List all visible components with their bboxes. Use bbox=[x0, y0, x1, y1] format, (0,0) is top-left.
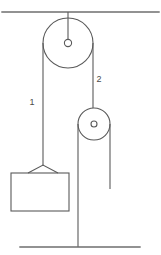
rope-1-label: 1 bbox=[29, 97, 34, 107]
movable-pulley-lower-hub bbox=[91, 121, 97, 127]
pulley-diagram-canvas: 1 2 bbox=[0, 0, 161, 255]
fixed-pulley-top-hub bbox=[64, 39, 71, 46]
pulley-diagram: 1 2 bbox=[0, 0, 161, 255]
rope-2-label: 2 bbox=[96, 74, 101, 84]
block-hook bbox=[28, 165, 58, 173]
suspended-block bbox=[11, 173, 69, 211]
